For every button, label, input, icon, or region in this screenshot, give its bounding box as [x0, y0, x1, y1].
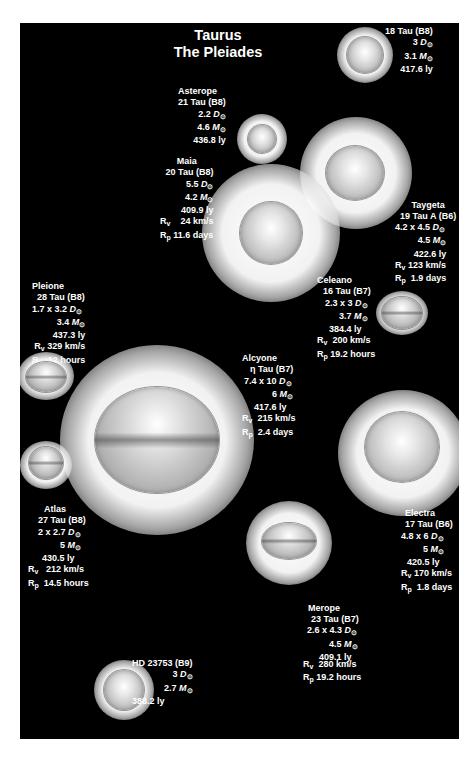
rotation-velocity: Rv 170 km/s	[401, 568, 453, 581]
mass: 3.1 M⊙	[385, 51, 433, 64]
designation: 28 Tau (B8)	[32, 292, 85, 303]
label-electra: Electra 17 Tau (B6) 4.8 x 6 D⊙ 5 M⊙ 420.…	[401, 508, 453, 595]
label-merope: Merope	[306, 603, 340, 614]
distance: 388.2 ly	[132, 696, 193, 707]
designation: 27 Tau (B8)	[28, 515, 89, 526]
designation: HD 23753 (B9)	[132, 658, 193, 669]
star-name: Asterope	[178, 86, 226, 97]
label-taygeta: Taygeta 19 Tau A (B6)	[400, 200, 456, 223]
rotation-period: Rp 11.6 days	[160, 230, 213, 243]
star-name: Pleione	[32, 281, 85, 292]
star-body	[95, 387, 219, 493]
distance: 437.3 ly	[32, 330, 85, 341]
star-body	[326, 146, 384, 200]
diameter: 3 D⊙	[385, 37, 433, 50]
distance: 430.5 ly	[28, 553, 89, 564]
label-taygeta-details: 4.2 x 4.5 D⊙ 4.5 M⊙ 422.6 ly Rv 123 km/s…	[395, 222, 446, 286]
label-asterope: Asterope 21 Tau (B8) 2.2 D⊙ 4.6 M⊙ 436.8…	[178, 86, 226, 146]
diameter: 2.2 D⊙	[178, 109, 226, 122]
pleiades-diagram-panel: Taurus The Pleiades 18 Tau (B8) 3 D⊙ 3.1…	[20, 23, 459, 739]
label-atlas: Atlas 27 Tau (B8) 2 x 2.7 D⊙ 5 M⊙ 430.5 …	[28, 504, 89, 591]
mass: 4.6 M⊙	[178, 122, 226, 135]
diameter: 2.6 x 4.3 D⊙	[307, 625, 359, 638]
mass: 5 M⊙	[401, 544, 453, 557]
distance: 417.6 ly	[385, 64, 433, 75]
star-name: Atlas	[28, 504, 89, 515]
diagram-title: Taurus The Pleiades	[138, 27, 298, 61]
star-name: Maia	[160, 156, 213, 167]
diameter: 5.5 D⊙	[160, 179, 213, 192]
designation: 18 Tau (B8)	[385, 26, 433, 37]
label-celeano: Celeano 16 Tau (B7) 2.3 x 3 D⊙ 3.7 M⊙ 38…	[317, 275, 375, 362]
rotation-velocity: Rv 24 km/s	[160, 216, 213, 229]
mass: 5 M⊙	[28, 540, 89, 553]
diameter: 4.2 x 4.5 D⊙	[395, 222, 446, 235]
designation: 16 Tau (B7)	[317, 286, 375, 297]
mass: 4.2 M⊙	[160, 192, 213, 205]
mass: 2.7 M⊙	[132, 683, 193, 696]
star-name: Celeano	[317, 275, 375, 286]
star-body	[240, 202, 302, 264]
rotation-velocity: Rv 215 km/s	[242, 413, 295, 426]
diameter: 3 D⊙	[132, 669, 193, 682]
star-body	[347, 37, 383, 73]
designation: 21 Tau (B8)	[178, 97, 226, 108]
designation: 23 Tau (B7)	[307, 614, 359, 625]
distance: 422.6 ly	[395, 249, 446, 260]
star-name: Alcyone	[242, 353, 295, 364]
star-name: Merope	[306, 603, 340, 614]
star-body	[382, 297, 422, 329]
distance: 436.8 ly	[178, 135, 226, 146]
rotation-velocity: Rv 200 km/s	[317, 335, 375, 348]
star-body	[248, 125, 276, 153]
star-name: Electra	[401, 508, 453, 519]
rotation-period: Rp 1.9 days	[395, 273, 446, 286]
designation: 17 Tau (B6)	[401, 519, 453, 530]
diameter: 2.3 x 3 D⊙	[317, 298, 375, 311]
rotation-velocity: Rv 212 km/s	[28, 564, 89, 577]
rotation-period: Rp 2.4 days	[242, 427, 295, 440]
diameter: 1.7 x 3.2 D⊙	[32, 304, 85, 317]
rotation-period: Rp 14.5 hours	[28, 578, 89, 591]
rotation-velocity: Rv 123 km/s	[395, 260, 446, 273]
rotation-velocity: Rv 280 km/s	[303, 659, 361, 672]
title-cluster: The Pleiades	[138, 44, 298, 61]
designation: 20 Tau (B8)	[160, 167, 213, 178]
title-constellation: Taurus	[138, 27, 298, 44]
diameter: 2 x 2.7 D⊙	[28, 527, 89, 540]
diameter: 7.4 x 10 D⊙	[242, 376, 295, 389]
label-alcyone: Alcyone η Tau (B7) 7.4 x 10 D⊙ 6 M⊙ 417.…	[242, 353, 295, 440]
designation: 19 Tau A (B6)	[400, 211, 456, 222]
star-body	[29, 447, 63, 479]
distance: 420.5 ly	[401, 557, 453, 568]
mass: 3.4 M⊙	[32, 317, 85, 330]
label-merope-details: 23 Tau (B7) 2.6 x 4.3 D⊙ 4.5 M⊙ 409.1 ly	[307, 614, 359, 663]
star-body	[262, 523, 316, 559]
star-body	[365, 412, 439, 482]
diameter: 4.8 x 6 D⊙	[401, 531, 453, 544]
star-name: Taygeta	[400, 200, 456, 211]
star-body	[26, 362, 66, 392]
distance: 417.6 ly	[242, 402, 295, 413]
rotation-period: Rp 19.2 hours	[317, 349, 375, 362]
distance: 384.4 ly	[317, 324, 375, 335]
label-merope-rotation: Rv 280 km/s Rp 19.2 hours	[303, 659, 361, 686]
mass: 4.5 M⊙	[307, 639, 359, 652]
rotation-period: Rp 1.8 days	[401, 582, 453, 595]
designation: η Tau (B7)	[242, 364, 295, 375]
distance: 409.9 ly	[160, 205, 213, 216]
mass: 6 M⊙	[242, 389, 295, 402]
label-hd-23753: HD 23753 (B9) 3 D⊙ 2.7 M⊙ 388.2 ly	[132, 658, 193, 707]
label-maia: Maia 20 Tau (B8) 5.5 D⊙ 4.2 M⊙ 409.9 ly …	[160, 156, 213, 243]
rotation-period: Rp 19.2 hours	[303, 672, 361, 685]
mass: 4.5 M⊙	[395, 235, 446, 248]
mass: 3.7 M⊙	[317, 311, 375, 324]
label-18-tau: 18 Tau (B8) 3 D⊙ 3.1 M⊙ 417.6 ly	[385, 26, 433, 75]
